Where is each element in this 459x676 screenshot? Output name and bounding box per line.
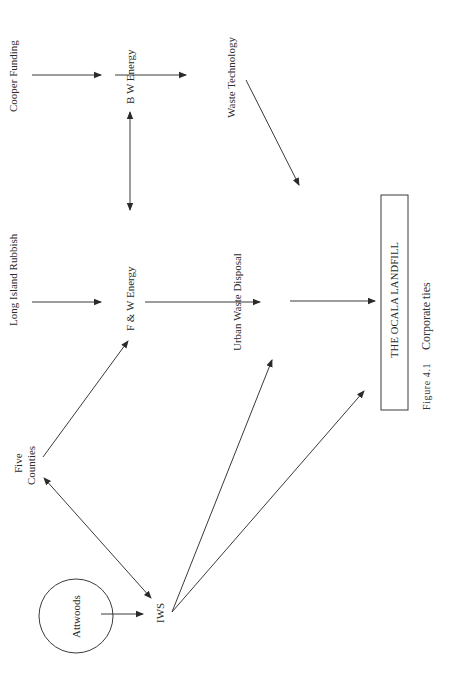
node-five-counties-line1: Five [12,453,24,473]
edge-iws-to-urban [172,360,272,612]
caption-figure-label: Figure 4.1 [421,363,432,410]
node-ocala-landfill: THE OCALA LANDFILL [381,195,408,410]
node-waste-technology: Waste Technology [225,37,237,118]
node-attwoods: Attwoods [39,579,113,653]
figure-caption: Figure 4.1 Corporate ties [419,282,433,410]
edge-iws-to-landfill [172,391,364,612]
node-bw-energy: B W Energy [124,49,136,104]
corporate-ties-diagram: Cooper Funding B W Energy Waste Technolo… [0,0,459,676]
node-long-island-rubbish: Long Island Rubbish [7,233,19,326]
attwoods-label: Attwoods [70,595,82,638]
node-cooper-funding: Cooper Funding [7,40,19,112]
node-five-counties-line2: Counties [25,446,37,485]
node-fw-energy: F & W Energy [124,266,136,331]
edge-fivecounties-iws-bidirectional [44,478,151,598]
landfill-label: THE OCALA LANDFILL [389,242,400,358]
edge-wastetech-to-landfill [246,80,299,185]
node-iws: IWS [154,603,166,623]
edge-fivecounties-to-fw [43,341,128,457]
caption-title: Corporate ties [419,282,433,350]
